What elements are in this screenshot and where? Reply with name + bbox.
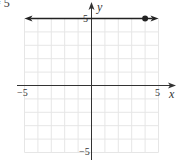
x-tick-max: 5 [155,88,160,98]
y-tick-min: −5 [79,147,90,157]
y-axis-label: y [97,1,102,13]
x-tick-min: −5 [17,88,28,98]
coordinate-plane [0,0,179,161]
x-axis-label: x [169,88,174,100]
point-dot [142,16,148,22]
y-tick-max: 5 [83,14,88,24]
